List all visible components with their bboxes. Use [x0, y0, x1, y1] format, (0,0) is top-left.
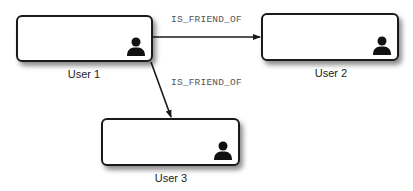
- node-user3[interactable]: [101, 118, 240, 166]
- person-icon: [126, 36, 146, 56]
- node-user2[interactable]: [261, 13, 399, 61]
- edge-user1-user3: [151, 62, 171, 117]
- edge-label-user1-user2: IS_FRIEND_OF: [171, 14, 242, 25]
- node-label-user2: User 2: [291, 67, 371, 79]
- node-label-user3: User 3: [131, 172, 211, 184]
- node-label-user1: User 1: [44, 68, 124, 80]
- person-icon: [213, 140, 233, 160]
- person-icon: [372, 35, 392, 55]
- edge-label-user1-user3: IS_FRIEND_OF: [171, 77, 242, 88]
- node-user1[interactable]: [16, 15, 153, 62]
